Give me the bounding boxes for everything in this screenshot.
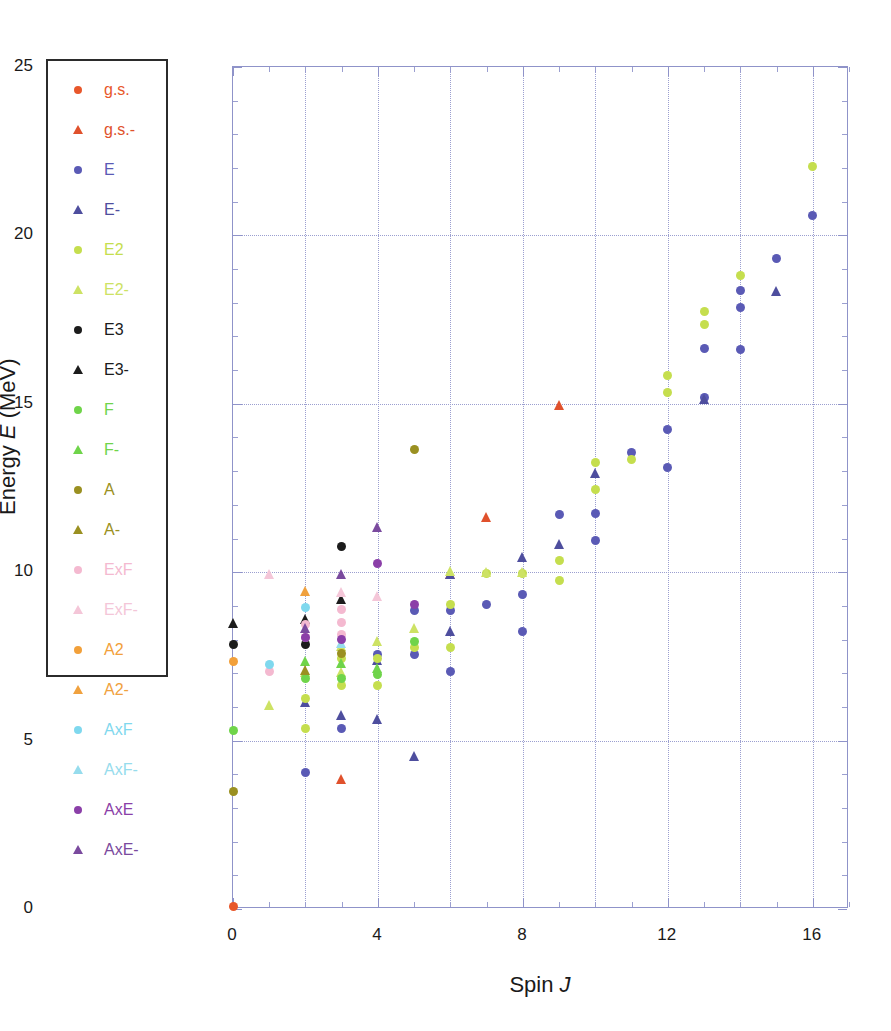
y-axis-tick xyxy=(233,134,238,135)
y-axis-tick xyxy=(233,404,242,405)
data-point-triangle-icon xyxy=(481,512,491,522)
data-point-circle-icon xyxy=(591,485,600,494)
y-axis-title-prefix: Energy xyxy=(0,439,20,515)
x-axis-title-prefix: Spin xyxy=(509,972,559,997)
y-axis-tick xyxy=(233,673,238,674)
y-axis-tick-label: 10 xyxy=(14,561,33,581)
y-axis-title-suffix: (MeV) xyxy=(0,358,20,424)
gridline-vertical xyxy=(813,67,814,907)
data-point-circle-icon xyxy=(808,211,817,220)
y-axis-tick xyxy=(842,471,847,472)
data-point-circle-icon xyxy=(482,600,491,609)
y-axis-tick xyxy=(233,303,238,304)
data-point-circle-icon xyxy=(736,271,745,280)
data-point-circle-icon xyxy=(410,637,419,646)
data-point-circle-icon xyxy=(736,303,745,312)
x-axis-tick xyxy=(668,67,669,76)
x-axis-tick-label: 8 xyxy=(517,925,526,945)
y-axis-tick xyxy=(233,67,242,68)
data-point-triangle-icon xyxy=(445,566,455,576)
x-axis-tick-label: 4 xyxy=(372,925,381,945)
x-axis-tick xyxy=(450,902,451,907)
data-point-triangle-icon xyxy=(228,618,238,628)
x-axis-title-variable: J xyxy=(560,972,571,997)
y-axis-tick xyxy=(842,202,847,203)
y-axis-tick xyxy=(842,101,847,102)
x-axis-tick xyxy=(378,67,379,76)
x-axis-tick xyxy=(523,67,524,76)
data-point-circle-icon xyxy=(591,458,600,467)
data-point-triangle-icon xyxy=(300,665,310,675)
data-point-circle-icon xyxy=(229,787,238,796)
data-point-triangle-icon xyxy=(771,286,781,296)
x-axis-tick xyxy=(269,902,270,907)
data-point-circle-icon xyxy=(337,618,346,627)
data-point-circle-icon xyxy=(446,643,455,652)
data-point-circle-icon xyxy=(663,463,672,472)
gridline-horizontal xyxy=(233,235,847,236)
y-axis-tick-label: 20 xyxy=(14,224,33,244)
data-point-circle-icon xyxy=(591,509,600,518)
data-point-triangle-icon xyxy=(372,522,382,532)
y-axis-tick xyxy=(233,707,238,708)
data-point-triangle-icon xyxy=(554,400,564,410)
y-axis-title: Energy E (MeV) xyxy=(0,358,21,515)
y-axis-tick xyxy=(233,269,238,270)
data-point-circle-icon xyxy=(337,724,346,733)
y-axis-tick xyxy=(842,336,847,337)
data-point-circle-icon xyxy=(772,254,781,263)
data-point-triangle-icon xyxy=(517,552,527,562)
data-point-triangle-icon xyxy=(264,700,274,710)
data-point-circle-icon xyxy=(337,542,346,551)
data-point-circle-icon xyxy=(700,344,709,353)
data-point-triangle-icon xyxy=(517,567,527,577)
y-axis-tick xyxy=(233,539,238,540)
x-axis-title: Spin J xyxy=(509,972,570,998)
x-axis-tick xyxy=(450,67,451,72)
data-point-triangle-icon xyxy=(300,623,310,633)
x-axis-tick xyxy=(704,67,705,72)
x-axis-tick xyxy=(414,902,415,907)
y-axis-tick xyxy=(842,303,847,304)
data-point-circle-icon xyxy=(591,536,600,545)
gridline-vertical xyxy=(450,67,451,907)
gridline-horizontal xyxy=(233,404,847,405)
x-axis-tick xyxy=(487,67,488,72)
x-axis-tick xyxy=(704,902,705,907)
x-axis-tick xyxy=(269,67,270,72)
y-axis-tick xyxy=(233,875,238,876)
y-axis-tick xyxy=(233,774,238,775)
data-point-triangle-icon xyxy=(372,636,382,646)
gridline-vertical xyxy=(378,67,379,907)
gridline-horizontal xyxy=(233,572,847,573)
data-point-circle-icon xyxy=(700,307,709,316)
data-point-circle-icon xyxy=(555,510,564,519)
x-axis-tick-label: 0 xyxy=(227,925,236,945)
plot-area xyxy=(232,66,848,908)
data-point-triangle-icon xyxy=(372,591,382,601)
y-axis-tick xyxy=(233,101,238,102)
data-point-circle-icon xyxy=(663,388,672,397)
y-axis-tick xyxy=(233,741,242,742)
data-point-circle-icon xyxy=(265,660,274,669)
x-axis-tick xyxy=(305,67,306,72)
y-axis-tick xyxy=(233,808,238,809)
y-axis-tick xyxy=(842,606,847,607)
data-point-triangle-icon xyxy=(336,658,346,668)
y-axis-tick xyxy=(233,572,242,573)
x-axis-tick xyxy=(378,898,379,907)
x-axis-tick xyxy=(632,67,633,72)
data-point-triangle-icon xyxy=(336,587,346,597)
y-axis-tick xyxy=(842,808,847,809)
y-axis-tick xyxy=(838,909,847,910)
chart-container: Energy E (MeV) Spin J 05101520250481216 xyxy=(0,0,891,1031)
y-axis-tick xyxy=(842,269,847,270)
data-point-circle-icon xyxy=(700,320,709,329)
data-point-triangle-icon xyxy=(336,710,346,720)
data-point-triangle-icon xyxy=(481,567,491,577)
y-axis-tick xyxy=(842,774,847,775)
data-point-triangle-icon xyxy=(590,468,600,478)
y-axis-tick xyxy=(233,606,238,607)
y-axis-tick xyxy=(838,572,847,573)
y-axis-tick xyxy=(842,707,847,708)
